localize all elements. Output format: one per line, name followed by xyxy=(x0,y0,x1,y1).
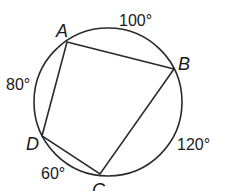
quadrilateral-abcd xyxy=(42,42,174,174)
arc-label-ab: 100° xyxy=(119,12,152,29)
vertex-label-b: B xyxy=(178,54,190,74)
vertex-label-d: D xyxy=(26,134,39,154)
arc-label-cd: 60° xyxy=(41,165,65,182)
vertex-label-c: C xyxy=(92,180,106,191)
circle xyxy=(34,28,182,176)
vertex-label-a: A xyxy=(55,21,68,41)
inscribed-quadrilateral-diagram: A B C D 100° 120° 60° 80° xyxy=(0,0,227,191)
arc-label-bc: 120° xyxy=(177,136,210,153)
arc-label-da: 80° xyxy=(6,76,30,93)
